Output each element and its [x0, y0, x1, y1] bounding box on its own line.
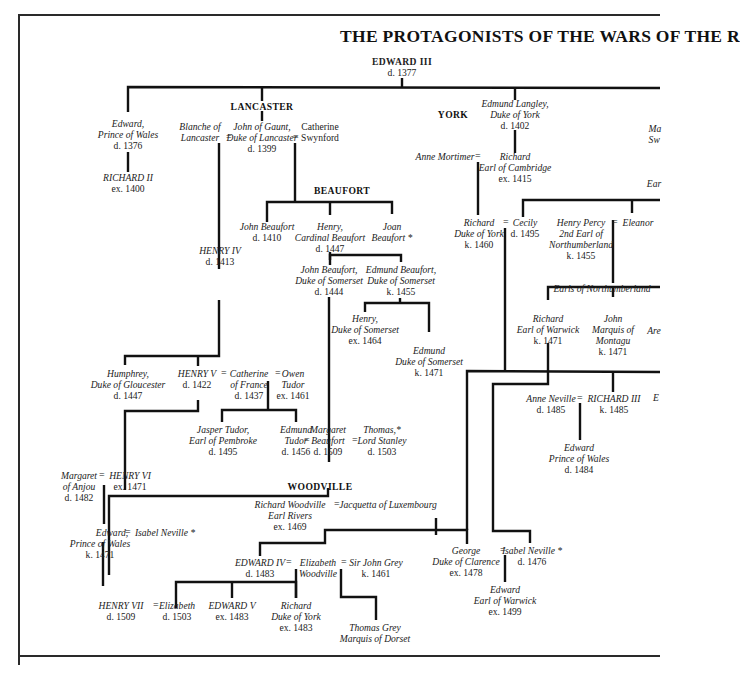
marriage-symbol: =: [503, 216, 509, 227]
person-edward-prince-of-wales-1484: Edward Prince of Wales d. 1484: [549, 442, 609, 475]
marriage-symbol: =: [125, 526, 131, 537]
person-catherine-swynford: Catherine Swynford: [301, 121, 339, 143]
person-edward-v: EDWARD V ex. 1483: [208, 600, 255, 622]
cutoff-text: Ear: [647, 178, 661, 189]
person-jacquetta-of-luxembourg: Jacquetta of Luxembourg: [339, 499, 437, 510]
person-edward-earl-of-warwick: Edward Earl of Warwick ex. 1499: [474, 584, 537, 617]
person-sir-john-grey: Sir John Grey k. 1461: [349, 557, 402, 579]
person-john-marquis-of-montagu: John Marquis of Montagu k. 1471: [592, 313, 634, 357]
person-eleanor: Eleanor: [623, 217, 654, 228]
person-john-beaufort-1410: John Beaufort d. 1410: [240, 221, 295, 243]
person-george-duke-of-clarence: George Duke of Clarence ex. 1478: [432, 545, 499, 578]
person-henry-v: HENRY V d. 1422: [178, 368, 216, 390]
marriage-symbol: =: [612, 216, 618, 227]
person-thomas-lord-stanley: Thomas,* Lord Stanley d. 1503: [358, 424, 407, 457]
person-edward-prince-of-wales-1471: Edward, Prince of Wales k. 1471: [70, 527, 130, 560]
person-isabel-neville-clarence: Isabel Neville * d. 1476: [502, 545, 562, 567]
person-richard-duke-of-york-1483: Richard Duke of York ex. 1483: [271, 600, 321, 633]
person-anne-neville: Anne Neville d. 1485: [526, 393, 575, 415]
marriage-symbol: =: [286, 556, 292, 567]
person-edmund-beaufort-somerset: Edmund Beaufort, Duke of Somerset k. 145…: [366, 264, 436, 297]
person-edward-iv: EDWARD IV d. 1483: [235, 557, 285, 579]
house-woodville: WOODVILLE: [288, 481, 353, 492]
person-jasper-tudor: Jasper Tudor, Earl of Pembroke d. 1495: [189, 424, 257, 457]
marriage-symbol: =: [304, 434, 310, 445]
person-humphrey-duke-of-gloucester: Humphrey, Duke of Gloucester d. 1447: [91, 368, 166, 401]
person-edmund-duke-of-somerset: Edmund Duke of Somerset k. 1471: [395, 345, 463, 378]
person-cecily: Cecily d. 1495: [511, 217, 540, 239]
person-edward-iii: EDWARD III d. 1377: [372, 56, 432, 78]
house-beaufort: BEAUFORT: [314, 185, 370, 196]
person-henry-duke-of-somerset: Henry, Duke of Somerset ex. 1464: [331, 313, 399, 346]
cutoff-text: Are: [647, 325, 661, 336]
person-blanche-of-lancaster: Blanche of Lancaster: [179, 121, 220, 143]
person-elizabeth-woodville: Elizabeth Woodville: [299, 557, 337, 579]
person-henry-vi: HENRY VI ex. 1471: [109, 470, 151, 492]
person-richard-iii: RICHARD III k. 1485: [587, 393, 640, 415]
person-owen-tudor: Owen Tudor ex. 1461: [276, 368, 309, 401]
person-richard-duke-of-york: Richard Duke of York k. 1460: [454, 217, 504, 250]
person-richard-ii: RICHARD II ex. 1400: [103, 172, 153, 194]
person-margaret-beaufort: Margaret Beaufort d. 1509: [310, 424, 346, 457]
person-edmund-langley: Edmund Langley, Duke of York d. 1402: [481, 98, 548, 131]
person-catherine-of-france: Catherine of France d. 1437: [230, 368, 268, 401]
person-richard-earl-of-cambridge: Richard Earl of Cambridge ex. 1415: [479, 151, 552, 184]
person-john-beaufort-somerset: John Beaufort, Duke of Somerset d. 1444: [295, 264, 363, 297]
person-elizabeth-of-york: Elizabeth d. 1503: [159, 600, 195, 622]
person-richard-woodville: Richard Woodville Earl Rivers ex. 1469: [255, 499, 326, 532]
marriage-symbol: =: [341, 556, 347, 567]
house-york: YORK: [438, 109, 468, 120]
cutoff-text: E: [653, 392, 659, 403]
person-edward-prince-of-wales-1376: Edward, Prince of Wales d. 1376: [98, 118, 158, 151]
person-margaret-of-anjou: Margaret of Anjou d. 1482: [61, 470, 97, 503]
person-richard-earl-of-warwick: Richard Earl of Warwick k. 1471: [517, 313, 580, 346]
person-john-of-gaunt: John of Gaunt, Duke of Lancaster d. 1399: [227, 121, 298, 154]
person-henry-cardinal-beaufort: Henry, Cardinal Beaufort d. 1447: [295, 221, 365, 254]
person-thomas-grey: Thomas Grey Marquis of Dorset: [340, 622, 411, 644]
cutoff-text: Ma Sw: [649, 123, 662, 145]
person-anne-mortimer: Anne Mortimer: [416, 151, 475, 162]
marriage-symbol: =: [153, 599, 159, 610]
marriage-symbol: =: [221, 367, 227, 378]
person-isabel-neville-anne: Isabel Neville *: [135, 527, 195, 538]
marriage-symbol: =: [577, 392, 583, 403]
person-joan-beaufort: Joan Beaufort *: [372, 221, 413, 243]
house-lancaster: LANCASTER: [231, 101, 294, 112]
label-earls-of-northumberland: Earls of Northumberland: [553, 283, 650, 294]
marriage-symbol: =: [293, 131, 299, 142]
person-henry-vii: HENRY VII d. 1509: [99, 600, 144, 622]
marriage-symbol: =: [99, 469, 105, 480]
person-henry-percy: Henry Percy 2nd Earl of Northumberland k…: [549, 217, 613, 261]
person-henry-iv: HENRY IV d. 1413: [199, 245, 241, 267]
